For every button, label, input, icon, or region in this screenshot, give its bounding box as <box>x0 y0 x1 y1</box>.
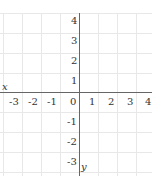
x-tick: 1 <box>89 97 95 107</box>
x-tick: -1 <box>47 97 57 107</box>
x-tick: -2 <box>28 97 38 107</box>
y-tick: -3 <box>67 157 77 167</box>
x-tick: -3 <box>9 97 19 107</box>
grid-svg <box>0 0 152 178</box>
y-tick: -1 <box>67 117 77 127</box>
x-tick: 4 <box>145 97 151 107</box>
x-axis-label: x <box>2 82 8 92</box>
y-tick: 3 <box>71 36 77 46</box>
y-tick: 2 <box>71 56 77 66</box>
y-tick: 4 <box>71 16 77 26</box>
coordinate-plane: x y -3 -2 -1 0 1 2 3 4 4 3 2 1 -1 -2 -3 <box>0 0 152 178</box>
x-tick: 2 <box>108 97 114 107</box>
y-axis-label: y <box>81 162 87 172</box>
x-tick: 0 <box>70 97 76 107</box>
y-tick: 1 <box>71 76 77 86</box>
y-tick: -2 <box>67 137 77 147</box>
x-tick: 3 <box>127 97 133 107</box>
